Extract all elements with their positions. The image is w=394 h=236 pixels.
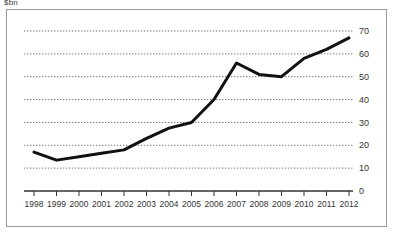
x-axis-tick-label: 2003 bbox=[137, 199, 156, 209]
y-axis-tick-label: 60 bbox=[359, 49, 369, 59]
y-axis-tick-label: 10 bbox=[359, 163, 369, 173]
y-axis-unit-label: $bn bbox=[4, 0, 18, 7]
x-axis-tick-label: 2001 bbox=[92, 199, 111, 209]
y-axis-tick-label: 30 bbox=[359, 118, 369, 128]
x-axis-tick-label: 2009 bbox=[272, 199, 291, 209]
x-axis-tick-label: 2012 bbox=[340, 199, 359, 209]
y-axis-tick-label: 40 bbox=[359, 95, 369, 105]
x-axis-tick-label: 2010 bbox=[295, 199, 314, 209]
x-axis-tick-label: 2005 bbox=[182, 199, 201, 209]
x-axis-tick-label: 2004 bbox=[160, 199, 179, 209]
y-axis-tick-label: 70 bbox=[359, 26, 369, 36]
y-axis-tick-label: 50 bbox=[359, 72, 369, 82]
x-axis-tick-label: 1999 bbox=[47, 199, 66, 209]
data-series-line-group bbox=[34, 38, 349, 160]
x-axis-tick-label: 2002 bbox=[115, 199, 134, 209]
data-series-line bbox=[34, 38, 349, 160]
gridlines-group bbox=[24, 31, 353, 168]
chart-figure: $bn 199819992000200120022003200420052006… bbox=[0, 0, 394, 236]
x-axis-labels-group: 1998199920002001200220032004200520062007… bbox=[25, 199, 359, 209]
x-axis-tick-label: 1998 bbox=[25, 199, 44, 209]
x-axis-tick-label: 2008 bbox=[250, 199, 269, 209]
x-axis-tick-label: 2006 bbox=[205, 199, 224, 209]
line-chart-canvas: 1998199920002001200220032004200520062007… bbox=[6, 9, 387, 227]
x-axis-ticks-group bbox=[34, 191, 349, 196]
x-axis-tick-label: 2007 bbox=[227, 199, 246, 209]
y-axis-tick-label: 0 bbox=[359, 186, 364, 196]
x-axis-tick-label: 2011 bbox=[317, 199, 336, 209]
x-axis-tick-label: 2000 bbox=[70, 199, 89, 209]
y-axis-labels-group: 010203040506070 bbox=[359, 26, 369, 196]
y-axis-tick-label: 20 bbox=[359, 140, 369, 150]
